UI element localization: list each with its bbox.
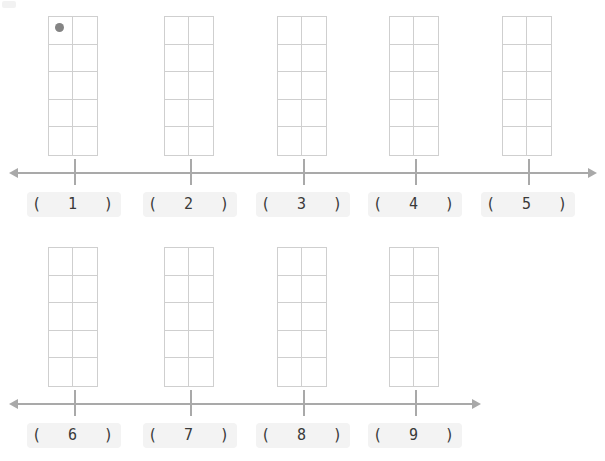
grid-cell[interactable] xyxy=(390,331,414,359)
place-value-grid[interactable] xyxy=(277,16,327,156)
grid-cell[interactable] xyxy=(49,72,73,100)
grid-cell[interactable] xyxy=(414,331,438,359)
grid-cell[interactable] xyxy=(302,276,326,304)
place-value-grid[interactable] xyxy=(48,16,98,156)
grid-cell[interactable] xyxy=(165,248,189,276)
place-value-grid[interactable] xyxy=(389,247,439,387)
grid-cell[interactable] xyxy=(49,248,73,276)
grid-cell[interactable] xyxy=(73,331,97,359)
grid-cell[interactable] xyxy=(73,303,97,331)
grid-cell[interactable] xyxy=(73,17,97,45)
grid-cell[interactable] xyxy=(165,127,189,155)
grid-cell[interactable] xyxy=(278,303,302,331)
grid-cell[interactable] xyxy=(390,127,414,155)
grid-cell[interactable] xyxy=(73,276,97,304)
grid-cell[interactable] xyxy=(302,303,326,331)
grid-cell[interactable] xyxy=(414,358,438,386)
grid-cell[interactable] xyxy=(390,358,414,386)
answer-label-9[interactable]: ( 9 ) xyxy=(368,423,462,448)
grid-cell[interactable] xyxy=(414,100,438,128)
grid-cell[interactable] xyxy=(189,358,213,386)
grid-cell[interactable] xyxy=(390,45,414,73)
grid-cell[interactable] xyxy=(189,276,213,304)
grid-cell[interactable] xyxy=(390,100,414,128)
grid-cell[interactable] xyxy=(302,100,326,128)
grid-cell[interactable] xyxy=(527,45,551,73)
grid-cell[interactable] xyxy=(302,331,326,359)
grid-cell[interactable] xyxy=(278,72,302,100)
grid-cell[interactable] xyxy=(390,276,414,304)
grid-cell[interactable] xyxy=(414,276,438,304)
grid-cell[interactable] xyxy=(302,45,326,73)
grid-cell[interactable] xyxy=(527,17,551,45)
grid-cell[interactable] xyxy=(49,331,73,359)
grid-cell[interactable] xyxy=(73,100,97,128)
grid-cell[interactable] xyxy=(165,100,189,128)
grid-cell[interactable] xyxy=(189,45,213,73)
grid-cell[interactable] xyxy=(165,358,189,386)
grid-cell[interactable] xyxy=(49,127,73,155)
grid-cell[interactable] xyxy=(302,248,326,276)
grid-cell[interactable] xyxy=(189,127,213,155)
answer-label-4[interactable]: ( 4 ) xyxy=(368,192,462,217)
grid-cell[interactable] xyxy=(503,17,527,45)
grid-cell[interactable] xyxy=(503,127,527,155)
grid-cell[interactable] xyxy=(189,72,213,100)
grid-cell[interactable] xyxy=(278,17,302,45)
grid-cell[interactable] xyxy=(49,45,73,73)
grid-cell[interactable] xyxy=(414,127,438,155)
grid-cell[interactable] xyxy=(73,358,97,386)
grid-cell[interactable] xyxy=(503,72,527,100)
grid-cell[interactable] xyxy=(278,358,302,386)
place-value-grid[interactable] xyxy=(164,247,214,387)
grid-cell[interactable] xyxy=(278,45,302,73)
answer-label-7[interactable]: ( 7 ) xyxy=(143,423,237,448)
grid-cell[interactable] xyxy=(73,72,97,100)
grid-cell[interactable] xyxy=(165,17,189,45)
grid-cell[interactable] xyxy=(503,45,527,73)
grid-cell[interactable] xyxy=(278,331,302,359)
grid-cell[interactable] xyxy=(49,358,73,386)
grid-cell[interactable] xyxy=(49,276,73,304)
grid-cell[interactable] xyxy=(165,331,189,359)
grid-cell[interactable] xyxy=(527,72,551,100)
grid-cell[interactable] xyxy=(189,331,213,359)
grid-cell[interactable] xyxy=(278,248,302,276)
answer-label-3[interactable]: ( 3 ) xyxy=(256,192,350,217)
grid-cell[interactable] xyxy=(165,276,189,304)
grid-cell[interactable] xyxy=(414,303,438,331)
grid-cell[interactable] xyxy=(73,45,97,73)
place-value-grid[interactable] xyxy=(277,247,327,387)
grid-cell[interactable] xyxy=(390,248,414,276)
place-value-grid[interactable] xyxy=(502,16,552,156)
grid-cell[interactable] xyxy=(278,276,302,304)
grid-cell[interactable] xyxy=(414,17,438,45)
grid-cell[interactable] xyxy=(390,72,414,100)
grid-cell[interactable] xyxy=(302,127,326,155)
grid-cell[interactable] xyxy=(49,303,73,331)
grid-cell[interactable] xyxy=(302,358,326,386)
grid-cell[interactable] xyxy=(302,17,326,45)
grid-cell[interactable] xyxy=(73,248,97,276)
grid-cell[interactable] xyxy=(49,17,73,45)
place-value-grid[interactable] xyxy=(48,247,98,387)
grid-cell[interactable] xyxy=(414,45,438,73)
grid-cell[interactable] xyxy=(73,127,97,155)
place-value-grid[interactable] xyxy=(389,16,439,156)
grid-cell[interactable] xyxy=(49,100,73,128)
grid-cell[interactable] xyxy=(165,72,189,100)
grid-cell[interactable] xyxy=(302,72,326,100)
place-value-grid[interactable] xyxy=(164,16,214,156)
grid-cell[interactable] xyxy=(165,45,189,73)
grid-cell[interactable] xyxy=(390,17,414,45)
answer-label-2[interactable]: ( 2 ) xyxy=(143,192,237,217)
answer-label-8[interactable]: ( 8 ) xyxy=(256,423,350,448)
grid-cell[interactable] xyxy=(189,100,213,128)
grid-cell[interactable] xyxy=(527,100,551,128)
grid-cell[interactable] xyxy=(503,100,527,128)
grid-cell[interactable] xyxy=(390,303,414,331)
grid-cell[interactable] xyxy=(414,248,438,276)
grid-cell[interactable] xyxy=(189,17,213,45)
grid-cell[interactable] xyxy=(189,248,213,276)
answer-label-5[interactable]: ( 5 ) xyxy=(481,192,575,217)
